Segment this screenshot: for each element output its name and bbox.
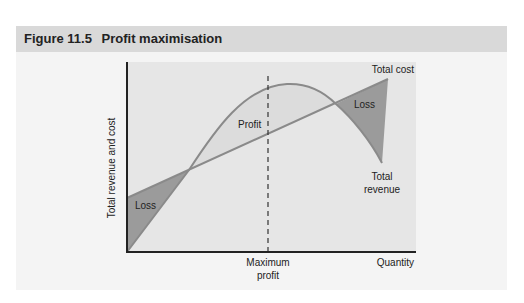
max-profit-label-1: Maximum [246, 257, 289, 268]
y-axis-label: Total revenue and cost [106, 117, 117, 218]
total-cost-label: Total cost [372, 64, 414, 75]
loss-label-right: Loss [354, 99, 375, 110]
total-revenue-label-2: revenue [364, 184, 401, 195]
profit-label: Profit [238, 119, 262, 130]
total-revenue-label-1: Total [371, 171, 392, 182]
x-axis-label: Quantity [377, 257, 414, 268]
max-profit-label-2: profit [257, 270, 279, 281]
profit-chart: Total revenue and cost Quantity Maximum … [0, 0, 524, 303]
loss-label-left: Loss [135, 200, 156, 211]
